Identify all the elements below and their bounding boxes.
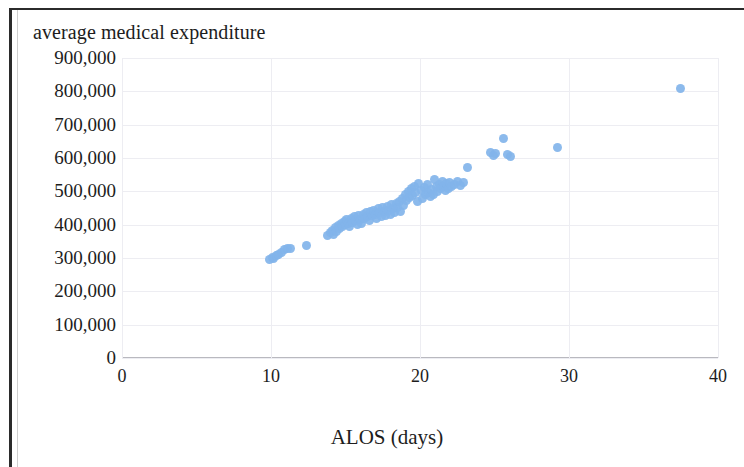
x-axis-tick-label: 10 xyxy=(262,366,280,387)
x-axis-tick-label: 20 xyxy=(411,366,429,387)
y-axis-tick-label: 700,000 xyxy=(8,114,116,136)
gridline-vertical xyxy=(271,58,272,358)
y-axis-tick-label: 0 xyxy=(8,347,116,369)
gridline-vertical xyxy=(718,58,719,358)
x-axis-title: ALOS (days) xyxy=(0,425,744,450)
chart-page: average medical expenditure 0100,000200,… xyxy=(0,0,744,467)
data-point xyxy=(676,84,685,93)
data-point xyxy=(286,244,295,253)
y-axis-tick-label: 400,000 xyxy=(8,214,116,236)
x-axis-tick-label: 40 xyxy=(709,366,727,387)
gridline-vertical xyxy=(420,58,421,358)
gridline-horizontal xyxy=(122,358,718,359)
x-axis-tick-label: 30 xyxy=(560,366,578,387)
y-axis-tick-label: 200,000 xyxy=(8,280,116,302)
y-axis-tick-label: 600,000 xyxy=(8,147,116,169)
y-axis-tick-label: 800,000 xyxy=(8,80,116,102)
data-point xyxy=(553,143,562,152)
data-point xyxy=(506,152,515,161)
y-axis-tick-label: 100,000 xyxy=(8,314,116,336)
y-axis-tick-labels: 0100,000200,000300,000400,000500,000600,… xyxy=(8,58,116,358)
x-axis-title-text: ALOS (days) xyxy=(331,425,444,449)
chart-title: average medical expenditure xyxy=(33,21,266,44)
y-axis-tick-label: 300,000 xyxy=(8,247,116,269)
x-axis-tick-label: 0 xyxy=(118,366,127,387)
gridline-vertical xyxy=(569,58,570,358)
gridline-vertical xyxy=(122,58,123,358)
page-frame-top-rule xyxy=(10,8,744,10)
x-axis-tick-labels: 010203040 xyxy=(122,366,718,392)
data-point xyxy=(463,163,472,172)
scatter-plot-area xyxy=(122,58,718,358)
y-axis-tick-label: 900,000 xyxy=(8,47,116,69)
data-point xyxy=(499,134,508,143)
y-axis-tick-label: 500,000 xyxy=(8,180,116,202)
data-point xyxy=(459,178,468,187)
